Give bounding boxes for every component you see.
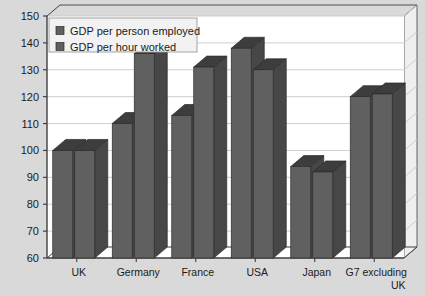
y-tick-label: 70 — [27, 225, 39, 237]
legend-label: GDP per hour worked — [70, 41, 176, 53]
y-tick-label: 60 — [27, 252, 39, 264]
x-category-label: UK — [71, 266, 86, 278]
chart-canvas: 60708090100110120130140150 UKGermanyFran… — [0, 0, 425, 296]
legend-item-1: GDP per person employed — [56, 25, 200, 37]
x-category-label: Japan — [302, 266, 331, 278]
legend-item-2: GDP per hour worked — [56, 41, 176, 53]
gdp-productivity-bar-chart: 60708090100110120130140150 UKGermanyFran… — [0, 0, 425, 296]
y-tick-label: 150 — [21, 10, 39, 22]
x-category-label: Germany — [117, 266, 161, 278]
legend-label: GDP per person employed — [70, 25, 200, 37]
bar-uk-s2 — [75, 139, 108, 258]
x-category-label: France — [181, 266, 214, 278]
y-tick-label: 130 — [21, 64, 39, 76]
bar-usa-s2 — [253, 59, 286, 258]
y-tick-label: 140 — [21, 37, 39, 49]
bar-japan-s2 — [313, 161, 346, 258]
bar-germany-s2 — [134, 43, 167, 258]
y-tick-label: 100 — [21, 144, 39, 156]
x-category-label: USA — [246, 266, 268, 278]
bar-g7-excluding-uk-s2 — [372, 83, 405, 258]
x-category-label-line2: UK — [391, 279, 406, 291]
y-tick-label: 110 — [21, 118, 39, 130]
y-tick-label: 90 — [27, 171, 39, 183]
bar-france-s2 — [194, 56, 227, 258]
x-category-label: G7 excluding — [346, 266, 407, 278]
y-tick-label: 80 — [27, 198, 39, 210]
y-tick-label: 120 — [21, 91, 39, 103]
chart-legend: GDP per person employedGDP per hour work… — [49, 18, 200, 53]
